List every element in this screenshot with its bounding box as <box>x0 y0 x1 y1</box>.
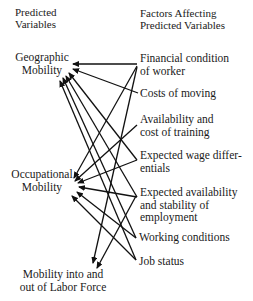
factor-expected-wage: Expected wage differ- entials <box>140 149 242 174</box>
edge-wage-geographic <box>69 73 137 160</box>
node-label: Occupational <box>10 168 74 181</box>
factor-label: Availability and <box>140 113 214 126</box>
factor-label: Working conditions <box>139 231 230 244</box>
factor-working-conditions: Working conditions <box>139 231 230 244</box>
factor-label: and stability of <box>140 199 237 212</box>
factor-costs-of-moving: Costs of moving <box>140 87 216 100</box>
node-geographic-mobility: Geographic Mobility <box>13 51 71 76</box>
header-line: Variables <box>15 18 57 30</box>
factors-header: Factors Affecting Predicted Variables <box>140 7 225 31</box>
factor-label: Job status <box>139 255 184 268</box>
header-line: Factors Affecting <box>140 7 225 19</box>
factor-financial-condition: Financial condition of worker <box>140 52 229 77</box>
node-label: Mobility <box>13 64 71 77</box>
edge-job-occupational <box>72 196 136 260</box>
header-line: Predicted <box>15 6 57 18</box>
edge-wage-occupational <box>78 160 137 183</box>
edge-training-laborforce <box>97 196 136 268</box>
node-labor-force-mobility: Mobility into and out of Labor Force <box>10 268 116 293</box>
factor-availability-training: Availability and cost of training <box>140 113 214 138</box>
factor-label: of worker <box>140 65 229 78</box>
factor-label: Financial condition <box>140 52 229 65</box>
factor-label: Expected availability <box>140 186 237 199</box>
factor-label: Costs of moving <box>140 87 216 100</box>
node-label: out of Labor Force <box>10 281 116 294</box>
header-line: Predicted Variables <box>140 19 225 31</box>
factor-job-status: Job status <box>139 255 184 268</box>
factor-label: entials <box>140 162 242 175</box>
factor-label: employment <box>140 211 237 224</box>
predicted-variables-header: Predicted Variables <box>15 6 57 30</box>
node-label: Mobility into and <box>10 268 116 281</box>
node-label: Geographic <box>13 51 71 64</box>
node-label: Mobility <box>10 181 74 194</box>
node-occupational-mobility: Occupational Mobility <box>10 168 74 193</box>
factor-label: Expected wage differ- <box>140 149 242 162</box>
factor-label: cost of training <box>140 126 214 139</box>
factor-expected-employment: Expected availability and stability of e… <box>140 186 237 224</box>
